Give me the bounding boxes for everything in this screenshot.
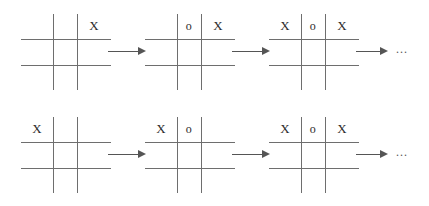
cell-2-0 xyxy=(21,65,53,90)
cell-0-0: X xyxy=(269,116,301,142)
continuation-ellipsis: ... xyxy=(396,42,408,61)
cell-0-0: X xyxy=(21,116,53,142)
cell-1-1 xyxy=(301,142,325,168)
board-1-3: X o X xyxy=(278,14,350,90)
board-2-2: X o xyxy=(154,117,226,193)
cell-1-0 xyxy=(145,39,177,65)
continuation-ellipsis: ... xyxy=(396,145,408,164)
arrow-head xyxy=(380,150,388,158)
arrow-shaft xyxy=(232,154,264,155)
cell-2-1 xyxy=(53,168,77,193)
arrow-shaft xyxy=(232,51,264,52)
cell-0-2: X xyxy=(325,13,359,39)
cell-0-2 xyxy=(201,116,235,142)
cell-2-2 xyxy=(325,168,359,193)
transition-arrow-icon xyxy=(356,44,390,60)
cell-1-0 xyxy=(269,39,301,65)
transition-arrow-icon xyxy=(108,147,148,163)
arrow-head xyxy=(380,47,388,55)
cell-2-0 xyxy=(269,168,301,193)
cell-0-1 xyxy=(53,116,77,142)
cell-0-1: o xyxy=(177,116,201,142)
cell-2-0 xyxy=(145,65,177,90)
arrow-shaft xyxy=(356,154,382,155)
cell-2-2 xyxy=(201,65,235,90)
cell-1-0 xyxy=(21,142,53,168)
cell-1-1 xyxy=(53,39,77,65)
cell-2-0 xyxy=(21,168,53,193)
cell-1-2 xyxy=(325,39,359,65)
cell-1-1 xyxy=(177,39,201,65)
transition-arrow-icon xyxy=(108,44,148,60)
cell-2-1 xyxy=(177,65,201,90)
cell-0-2: X xyxy=(201,13,235,39)
cell-1-2 xyxy=(201,142,235,168)
cell-1-2 xyxy=(325,142,359,168)
cell-0-2: X xyxy=(77,13,111,39)
tic-tac-toe-sequence-diagram: X o X xyxy=(0,0,429,206)
transition-arrow-icon xyxy=(232,147,272,163)
cell-0-2: X xyxy=(325,116,359,142)
cell-1-0 xyxy=(269,142,301,168)
transition-arrow-icon xyxy=(356,147,390,163)
cell-2-2 xyxy=(201,168,235,193)
cell-0-0: X xyxy=(269,13,301,39)
cell-0-1: o xyxy=(177,13,201,39)
arrow-shaft xyxy=(108,51,140,52)
arrow-shaft xyxy=(356,51,382,52)
cell-2-2 xyxy=(77,65,111,90)
arrow-shaft xyxy=(108,154,140,155)
cell-1-2 xyxy=(77,142,111,168)
cell-2-0 xyxy=(269,65,301,90)
cell-1-2 xyxy=(201,39,235,65)
cell-0-0 xyxy=(21,13,53,39)
board-2-3: X o X xyxy=(278,117,350,193)
cell-1-2 xyxy=(77,39,111,65)
cell-0-0: X xyxy=(145,116,177,142)
board-2-1: X xyxy=(30,117,102,193)
cell-2-2 xyxy=(77,168,111,193)
cell-1-1 xyxy=(301,39,325,65)
cell-2-0 xyxy=(145,168,177,193)
cell-0-1: o xyxy=(301,13,325,39)
cell-0-1: o xyxy=(301,116,325,142)
cell-2-1 xyxy=(301,65,325,90)
sequence-row-2: X X o xyxy=(0,103,429,206)
cell-0-1 xyxy=(53,13,77,39)
cell-0-2 xyxy=(77,116,111,142)
cell-2-1 xyxy=(301,168,325,193)
cell-1-0 xyxy=(21,39,53,65)
cell-2-2 xyxy=(325,65,359,90)
board-1-2: o X xyxy=(154,14,226,90)
cell-1-1 xyxy=(177,142,201,168)
cell-1-0 xyxy=(145,142,177,168)
sequence-row-1: X o X xyxy=(0,0,429,103)
cell-1-1 xyxy=(53,142,77,168)
cell-0-0 xyxy=(145,13,177,39)
transition-arrow-icon xyxy=(232,44,272,60)
cell-2-1 xyxy=(53,65,77,90)
board-1-1: X xyxy=(30,14,102,90)
cell-2-1 xyxy=(177,168,201,193)
